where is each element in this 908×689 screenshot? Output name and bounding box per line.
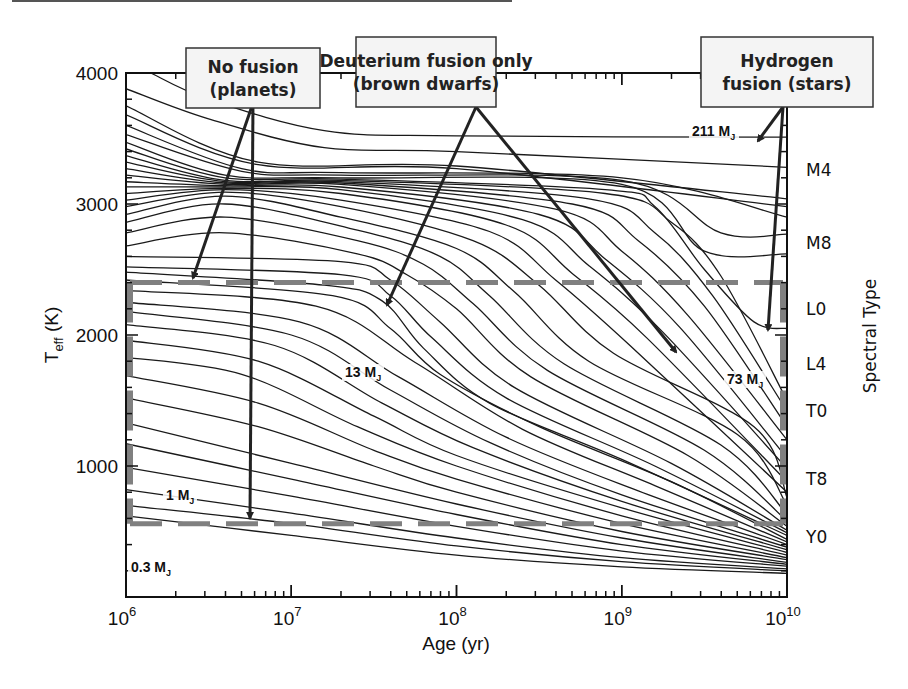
track-line (126, 125, 787, 217)
annotation-arrow (476, 107, 676, 352)
annotation-box: Hydrogenfusion (stars) (701, 37, 873, 107)
spectral-type-label: L0 (806, 299, 826, 319)
annotation-line-1: Hydrogen (740, 51, 833, 71)
y-tick-label: 4000 (76, 63, 118, 84)
track-line (126, 490, 787, 569)
annotation-box: No fusion(planets) (186, 48, 320, 108)
annotation-arrow (758, 107, 783, 141)
y-tick-label: 1000 (76, 456, 118, 477)
x-tick-label: 108 (438, 604, 466, 629)
annotation-line-1: Deuterium fusion only (319, 51, 532, 71)
track-line (126, 196, 787, 505)
y-tick-labels: 1000200030004000 (76, 63, 118, 477)
track-line (126, 182, 787, 458)
y-tick-label: 3000 (76, 194, 118, 215)
x-axis-title: Age (yr) (422, 633, 490, 654)
annotation-line-1: No fusion (207, 57, 298, 77)
spectral-type-labels: M4M8L0L4T0T8Y0 (805, 160, 831, 547)
chart: 1061071081091010 1000200030004000 M4M8L0… (0, 0, 908, 689)
x-tick-labels: 1061071081091010 (108, 604, 801, 629)
track-line (126, 340, 787, 552)
track-line (126, 192, 787, 497)
spectral-type-label: Y0 (805, 527, 827, 547)
annotation-line-2: (planets) (210, 80, 297, 100)
track-line (126, 217, 787, 521)
x-tick-label: 1010 (765, 604, 801, 629)
track-line (126, 169, 787, 427)
track-line (126, 311, 787, 547)
x-tick-label: 107 (273, 604, 301, 629)
spectral-type-label: M4 (806, 160, 831, 180)
track-line (126, 280, 787, 539)
spectral-type-label: T8 (805, 469, 827, 489)
y-axis-title: Teff (K) (41, 307, 66, 363)
y2-axis-title: Spectral Type (860, 279, 880, 394)
track-line (126, 272, 787, 535)
x-tick-label: 109 (604, 604, 632, 629)
spectral-type-label: T0 (805, 401, 827, 421)
y-tick-label: 2000 (76, 325, 118, 346)
spectral-type-label: M8 (806, 233, 831, 253)
annotation-line-2: fusion (stars) (723, 74, 852, 94)
annotation-line-2: (brown dwarfs) (353, 74, 500, 94)
track-line (126, 149, 787, 329)
annotation-arrow (250, 103, 253, 518)
x-tick-label: 106 (108, 604, 136, 629)
spectral-type-label: L4 (806, 354, 826, 374)
